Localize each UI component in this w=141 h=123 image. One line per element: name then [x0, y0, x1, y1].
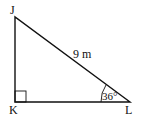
vertex-label-l: L	[125, 103, 132, 117]
right-angle-marker	[15, 91, 26, 102]
angle-label-l: 36°	[102, 90, 117, 102]
vertex-label-j: J	[10, 3, 15, 17]
vertex-label-k: K	[9, 103, 18, 117]
hypotenuse-length-label: 9 m	[73, 47, 92, 61]
triangle-diagram: J K L 9 m 36°	[0, 0, 141, 123]
